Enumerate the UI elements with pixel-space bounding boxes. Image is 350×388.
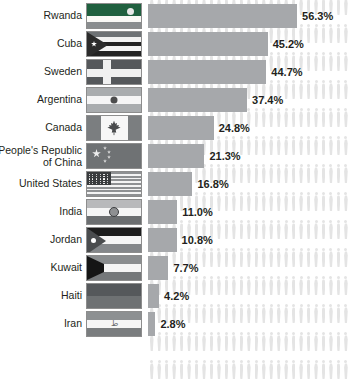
jordan-flag bbox=[86, 227, 142, 253]
value-bar bbox=[148, 172, 192, 196]
value-bar bbox=[148, 4, 297, 28]
value-label: 7.7% bbox=[173, 262, 198, 274]
value-bar bbox=[148, 88, 247, 112]
chart-row: Haiti4.2% bbox=[0, 282, 350, 310]
value-bar bbox=[148, 116, 214, 140]
china-flag bbox=[86, 143, 142, 169]
india-flag bbox=[86, 199, 142, 225]
country-label: Iran bbox=[0, 318, 82, 330]
value-label: 4.2% bbox=[164, 290, 189, 302]
value-label: 44.7% bbox=[271, 66, 302, 78]
chart-row: Jordan10.8% bbox=[0, 226, 350, 254]
value-label: 16.8% bbox=[197, 178, 228, 190]
pictogram-bar-chart: Rwanda56.3%Cuba45.2%Sweden44.7%Argentina… bbox=[0, 0, 350, 388]
chart-row: United States16.8% bbox=[0, 170, 350, 198]
canada-flag bbox=[86, 115, 142, 141]
country-label: Argentina bbox=[0, 94, 82, 106]
value-bar bbox=[148, 60, 266, 84]
value-label: 45.2% bbox=[273, 38, 304, 50]
value-bar bbox=[148, 312, 155, 336]
value-bar bbox=[148, 144, 204, 168]
value-bar bbox=[148, 284, 159, 308]
value-label: 24.8% bbox=[219, 122, 250, 134]
value-label: 21.3% bbox=[209, 150, 240, 162]
value-bar bbox=[148, 32, 268, 56]
country-label: Jordan bbox=[0, 234, 82, 246]
value-label: 56.3% bbox=[302, 10, 333, 22]
chart-row: Argentina37.4% bbox=[0, 86, 350, 114]
kuwait-flag bbox=[86, 255, 142, 281]
country-label: Rwanda bbox=[0, 10, 82, 22]
chart-row: People's Republic of China21.3% bbox=[0, 142, 350, 170]
country-label: Haiti bbox=[0, 290, 82, 302]
chart-row: India11.0% bbox=[0, 198, 350, 226]
country-label: India bbox=[0, 206, 82, 218]
value-bar bbox=[148, 200, 177, 224]
chart-rows: Rwanda56.3%Cuba45.2%Sweden44.7%Argentina… bbox=[0, 0, 350, 388]
iran-flag: ط bbox=[86, 311, 142, 337]
value-bar bbox=[148, 256, 168, 280]
chart-row: Cuba45.2% bbox=[0, 30, 350, 58]
country-label: Cuba bbox=[0, 38, 82, 50]
argentina-flag bbox=[86, 87, 142, 113]
value-label: 10.8% bbox=[182, 234, 213, 246]
chart-row: Sweden44.7% bbox=[0, 58, 350, 86]
sweden-flag bbox=[86, 59, 142, 85]
country-label: People's Republic of China bbox=[0, 145, 82, 168]
usa-flag bbox=[86, 171, 142, 197]
country-label: Kuwait bbox=[0, 262, 82, 274]
chart-row: Kuwait7.7% bbox=[0, 254, 350, 282]
haiti-flag bbox=[86, 283, 142, 309]
rwanda-flag bbox=[86, 3, 142, 29]
country-label: United States bbox=[0, 178, 82, 190]
value-label: 2.8% bbox=[160, 318, 185, 330]
chart-row: Iranط2.8% bbox=[0, 310, 350, 338]
chart-row: Canada24.8% bbox=[0, 114, 350, 142]
value-label: 11.0% bbox=[182, 206, 213, 218]
cuba-flag bbox=[86, 31, 142, 57]
chart-row: Rwanda56.3% bbox=[0, 2, 350, 30]
country-label: Canada bbox=[0, 122, 82, 134]
value-bar bbox=[148, 228, 177, 252]
country-label: Sweden bbox=[0, 66, 82, 78]
value-label: 37.4% bbox=[252, 94, 283, 106]
